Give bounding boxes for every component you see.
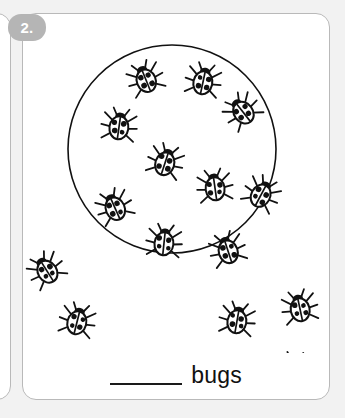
ladybug-icon <box>217 300 258 337</box>
ladybug-icon <box>122 56 167 99</box>
ladybug-icon <box>275 351 313 353</box>
answer-blank-line[interactable] <box>110 383 182 385</box>
ladybug-icon <box>205 228 249 269</box>
ladybug-icon <box>183 60 225 98</box>
answer-row: bugs <box>22 355 330 395</box>
ladybug-icon <box>99 106 139 142</box>
ladybug-icon <box>144 140 188 181</box>
ladybug-icon <box>57 300 99 339</box>
previous-question-card-sliver <box>0 13 11 400</box>
answer-unit-label: bugs <box>191 362 242 389</box>
grouping-circle <box>68 45 276 253</box>
ladybug-icon <box>22 246 69 292</box>
ladybug-icon <box>279 287 321 325</box>
worksheet-page: 2. bugs <box>0 0 345 418</box>
ladybug-icon <box>239 170 285 215</box>
ladybug-scatter-svg <box>22 13 330 353</box>
bug-counting-illustration <box>22 13 330 353</box>
ladybug-icon <box>217 86 265 133</box>
question-number-badge: 2. <box>8 14 46 41</box>
ladybug-icon <box>195 167 235 203</box>
ladybug-icon <box>91 184 136 227</box>
